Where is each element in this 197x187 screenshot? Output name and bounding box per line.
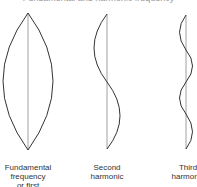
fundamental-wave: [3, 13, 53, 150]
second-harmonic-wave: [94, 14, 120, 149]
label-line: harmonic: [82, 172, 132, 181]
third-harmonic-wave: [180, 15, 193, 149]
label-line: Fundamental: [0, 163, 58, 172]
standing-waves-diagram: [0, 0, 197, 187]
label-line: harmonic: [163, 172, 197, 181]
label-line: frequency: [0, 172, 58, 181]
label-line: Second: [82, 163, 132, 172]
label-line: or first: [0, 181, 58, 187]
fundamental-label: Fundamental frequency or first: [0, 163, 58, 187]
wave-loop-left: [3, 13, 28, 150]
third-harmonic-label: Third harmonic: [163, 163, 197, 181]
second-harmonic-label: Second harmonic: [82, 163, 132, 181]
wave-loop-right: [28, 13, 53, 150]
label-line: Third: [163, 163, 197, 172]
